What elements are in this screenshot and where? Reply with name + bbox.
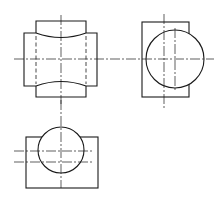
side-view — [110, 14, 214, 108]
top-view — [14, 100, 98, 188]
orthographic-drawing — [0, 0, 220, 205]
front-view — [14, 15, 108, 104]
